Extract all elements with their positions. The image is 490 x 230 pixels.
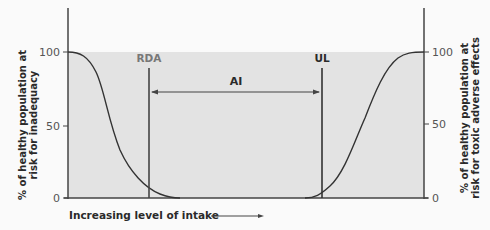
tick-right-100: 100 xyxy=(432,46,453,59)
left-y-label-line2: risk for inadequacy xyxy=(28,70,39,179)
rda-label: RDA xyxy=(137,52,163,64)
tick-left-50: 50 xyxy=(46,120,60,133)
right-y-label-line2: risk for toxic adverse effects xyxy=(470,37,481,199)
x-arrow-icon xyxy=(258,214,264,218)
ai-label: AI xyxy=(230,75,243,88)
x-axis-label: Increasing level of intake xyxy=(69,209,219,221)
left-y-label-line1: % of healthy population at xyxy=(17,50,28,200)
tick-left-0: 0 xyxy=(53,192,60,205)
chart: 100 50 0 100 50 0 RDA UL AI Increasing l… xyxy=(0,0,490,230)
right-y-label-line1: % of healthy population at xyxy=(459,43,470,193)
plot-area xyxy=(68,52,424,198)
tick-right-0: 0 xyxy=(432,192,439,205)
tick-left-100: 100 xyxy=(39,46,60,59)
tick-right-50: 50 xyxy=(432,118,446,131)
ul-label: UL xyxy=(314,52,330,64)
